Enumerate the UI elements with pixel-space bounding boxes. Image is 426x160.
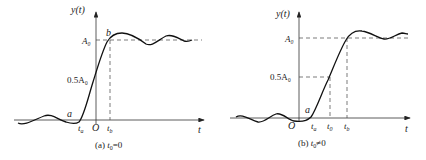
origin-label: O [288, 120, 295, 131]
panel-a: y(t) t A₀ 0.5A₀ a b O ta tb (a) t0=0 [14, 4, 204, 151]
point-a-label: a [305, 104, 310, 115]
y-axis-label: y(t) [70, 4, 86, 16]
point-b-label: b [106, 27, 111, 38]
y-axis-label: y(t) [275, 8, 291, 20]
tb-tick-label: tb [107, 123, 113, 134]
half-a0-level-label: 0.5A₀ [270, 72, 291, 82]
x-axis-label: t [198, 124, 201, 135]
point-a-label: a [67, 108, 72, 119]
t0-tick-label: t0 [327, 121, 333, 132]
panel-b-caption: (b) t0≠0 [298, 138, 326, 149]
panel-a-caption: (a) t0=0 [95, 140, 123, 151]
panel-b: y(t) t A₀ 0.5A₀ a O ta t0 tb (b) t0≠0 [230, 8, 410, 149]
origin-label: O [92, 122, 99, 133]
tb-tick-label: tb [344, 121, 350, 132]
step-response-diagram: y(t) t A₀ 0.5A₀ a b O ta tb (a) t0=0 y(t… [0, 0, 426, 160]
a0-level-label: A₀ [284, 34, 294, 44]
a0-level-label: A₀ [81, 36, 91, 46]
response-curve [18, 33, 192, 124]
ta-tick-label: ta [311, 121, 317, 132]
half-a0-level-label: 0.5A₀ [67, 75, 88, 85]
ta-tick-label: ta [78, 123, 84, 134]
response-curve [236, 31, 408, 122]
x-axis-label: t [405, 123, 408, 134]
